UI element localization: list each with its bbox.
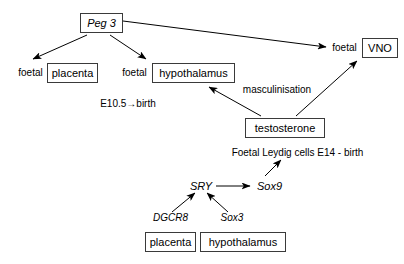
label-timing-peg3: E10.5→birth <box>92 97 164 110</box>
node-peg3[interactable]: Peg 3 <box>80 13 123 33</box>
node-hypothalamus-top[interactable]: hypothalamus <box>152 63 235 83</box>
arrow-sox3-to-sry <box>207 193 228 212</box>
label-foetal-vno: foetal <box>328 39 361 57</box>
node-vno[interactable]: VNO <box>362 38 398 58</box>
node-dgcr8[interactable]: DGCR8 <box>148 211 193 224</box>
arrow-peg3-to-vno <box>123 21 326 47</box>
node-testosterone[interactable]: testosterone <box>245 118 325 138</box>
node-hypothalamus-bottom[interactable]: hypothalamus <box>200 232 286 252</box>
arrow-sox9-to-leydig <box>265 160 281 176</box>
node-placenta-top[interactable]: placenta <box>47 63 98 83</box>
arrow-peg3-to-hypothalamus <box>110 35 146 59</box>
arrow-dgcr8-to-sry <box>172 193 195 212</box>
pathway-diagram: Peg 3 foetal placenta foetal hypothalamu… <box>0 0 404 264</box>
node-sox9[interactable]: Sox9 <box>253 179 286 193</box>
node-sry[interactable]: SRY <box>187 179 215 193</box>
label-foetal-leydig-cells: Foetal Leydig cells E14 - birth <box>226 146 369 159</box>
label-foetal-placenta: foetal <box>14 63 47 82</box>
label-masculinisation: masculinisation <box>238 83 316 96</box>
label-foetal-hypothalamus: foetal <box>118 63 151 82</box>
arrow-peg3-to-placenta <box>33 35 87 59</box>
node-sox3[interactable]: Sox3 <box>216 211 248 224</box>
node-placenta-bottom[interactable]: placenta <box>145 232 196 252</box>
